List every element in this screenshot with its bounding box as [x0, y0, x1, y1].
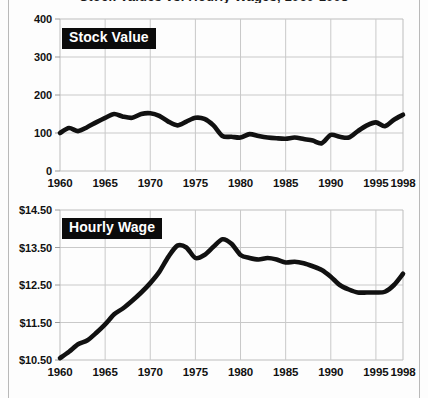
- chart-panel-hourly-wage: $14.50$13.50$12.50$11.50$10.50 196019651…: [0, 200, 428, 398]
- stock-y-axis-labels: 4003002001000: [0, 8, 52, 200]
- stock-y-tick-label: 300: [34, 51, 52, 63]
- wage-x-tick-label: 1970: [138, 366, 163, 378]
- wage-x-tick-label: 1980: [228, 366, 253, 378]
- wage-x-tick-label: 1965: [93, 366, 118, 378]
- stock-value-series-label: Stock Value: [62, 28, 156, 49]
- stock-y-tick-label: 400: [34, 13, 52, 25]
- stock-x-tick-label: 1970: [138, 177, 163, 189]
- wage-y-tick-label: $11.50: [20, 317, 52, 329]
- chart-panel-stock-value: 4003002001000 19601965197019751980198519…: [0, 8, 428, 200]
- wage-x-tick-label: 1995: [363, 366, 388, 378]
- wage-y-tick-label: $12.50: [19, 279, 52, 291]
- hourly-wage-series-label: Hourly Wage: [62, 218, 162, 239]
- stock-y-tick-label: 0: [46, 165, 52, 177]
- wage-x-tick-label: 1960: [47, 366, 72, 378]
- stock-y-tick-label: 100: [34, 127, 52, 139]
- stock-value-line: [60, 113, 403, 143]
- wage-y-tick-label: $13.50: [19, 242, 52, 254]
- wage-x-tick-label: 1975: [183, 366, 208, 378]
- stock-x-tick-label: 1975: [183, 177, 208, 189]
- wage-x-tick-label: 1990: [318, 366, 343, 378]
- stock-x-axis-labels: 196019651970197519801985199019951998: [0, 177, 428, 195]
- stock-x-tick-label: 1985: [273, 177, 298, 189]
- wage-y-tick-label: $10.50: [19, 354, 52, 366]
- figure-root: Stock Values vs. Hourly Wages, 1960-1998…: [0, 0, 428, 398]
- stock-x-tick-label: 1980: [228, 177, 253, 189]
- stock-y-tick-label: 200: [34, 89, 52, 101]
- stock-x-tick-label: 1998: [390, 177, 415, 189]
- wage-plot-wrapper: $14.50$13.50$12.50$11.50$10.50 196019651…: [0, 200, 428, 398]
- stock-plot-wrapper: 4003002001000 19601965197019751980198519…: [0, 8, 428, 200]
- figure-title-clipped: Stock Values vs. Hourly Wages, 1960-1998: [9, 0, 419, 3]
- hourly-wage-line: [60, 239, 403, 358]
- wage-y-tick-label: $14.50: [19, 204, 52, 216]
- stock-x-tick-label: 1965: [93, 177, 118, 189]
- wage-x-tick-label: 1998: [390, 366, 415, 378]
- stock-x-tick-label: 1960: [47, 177, 72, 189]
- stock-x-tick-label: 1990: [318, 177, 343, 189]
- wage-x-tick-label: 1985: [273, 366, 298, 378]
- stock-x-tick-label: 1995: [363, 177, 388, 189]
- wage-x-axis-labels: 196019651970197519801985199019951998: [0, 366, 428, 384]
